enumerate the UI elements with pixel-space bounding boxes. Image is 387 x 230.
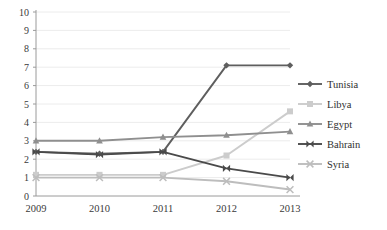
legend-item-bahrain[interactable]: Bahrain [297,134,387,154]
y-tick-label: 1 [24,172,29,183]
y-tick-label: 2 [24,154,29,165]
legend-label: Egypt [327,119,352,130]
y-tick-label: 9 [24,25,29,36]
y-tick-label: 5 [24,99,29,110]
legend-swatch-libya [297,97,323,111]
legend-label: Syria [327,159,349,170]
legend-item-libya[interactable]: Libya [297,94,387,114]
chart-legend: TunisiaLibyaEgyptBahrainSyria [297,74,387,174]
x-tick-label: 2011 [153,203,174,214]
legend-swatch-egypt [297,117,323,131]
x-tick-label: 2009 [26,203,47,214]
data-point-marker-square [224,153,230,159]
y-tick-label: 6 [24,80,29,91]
legend-label: Bahrain [327,139,360,150]
line-chart: 012345678910 20092010201120122013 Tunisi… [0,0,387,230]
y-tick-label: 4 [24,117,29,128]
y-tick-label: 7 [24,62,29,73]
y-tick-label: 3 [24,135,29,146]
x-tick-label: 2010 [89,203,110,214]
legend-label: Tunisia [327,79,358,90]
data-point-marker-square [287,108,293,114]
data-series-layer [32,62,293,193]
legend-label: Libya [327,99,352,110]
legend-swatch-bahrain [297,137,323,151]
legend-swatch-syria [297,157,323,171]
data-point-marker-square [307,101,313,107]
series-tunisia [33,62,293,157]
legend-item-tunisia[interactable]: Tunisia [297,74,387,94]
series-syria [33,174,294,193]
x-tick-label: 2013 [280,203,301,214]
series-libya [33,108,293,177]
y-tick-label: 8 [24,43,29,54]
x-tick-label: 2012 [216,203,237,214]
legend-swatch-tunisia [297,77,323,91]
y-tick-label: 10 [19,7,29,18]
y-tick-label: 0 [24,191,29,202]
legend-item-egypt[interactable]: Egypt [297,114,387,134]
x-axis-tick-labels: 20092010201120122013 [26,203,301,214]
legend-item-syria[interactable]: Syria [297,154,387,174]
data-point-marker-diamond [307,81,313,87]
